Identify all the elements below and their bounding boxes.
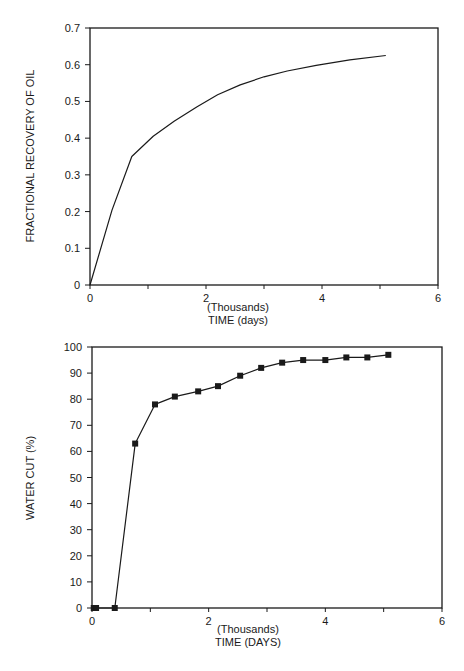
y-tick-label: 0.7 xyxy=(65,22,80,34)
y-tick-label: 20 xyxy=(70,550,82,562)
x-tick-label: 0 xyxy=(89,615,95,627)
square-marker xyxy=(343,354,349,360)
square-marker xyxy=(152,401,158,407)
square-marker xyxy=(112,605,118,611)
series-line xyxy=(94,355,389,608)
square-marker xyxy=(195,388,201,394)
data-series xyxy=(91,352,392,611)
x-axis-title: TIME (DAYS) xyxy=(215,636,281,648)
y-axis-title: WATER CUT (%) xyxy=(24,436,36,520)
y-tick-label: 80 xyxy=(70,393,82,405)
x-axis-units: (Thousands) xyxy=(217,623,279,635)
y-tick-label: 0 xyxy=(76,602,82,614)
y-tick-label: 70 xyxy=(70,419,82,431)
y-axis-ticks: 00.10.20.30.40.50.60.7 xyxy=(65,22,90,291)
x-axis-title: TIME (days) xyxy=(208,314,268,326)
square-marker xyxy=(93,605,99,611)
y-tick-label: 0 xyxy=(74,279,80,291)
y-axis-title: FRACTIONAL RECOVERY OF OIL xyxy=(24,70,36,243)
x-axis-units: (Thousands) xyxy=(207,301,269,313)
chart-canvas: 00.10.20.30.40.50.60.7 0246 FRACTIONAL R… xyxy=(0,0,464,671)
plot-frame xyxy=(92,347,442,608)
square-marker xyxy=(132,441,138,447)
x-tick-label: 4 xyxy=(319,292,325,304)
square-marker xyxy=(385,352,391,358)
x-tick-label: 4 xyxy=(322,615,328,627)
square-marker xyxy=(172,394,178,400)
square-marker xyxy=(322,357,328,363)
x-tick-label: 6 xyxy=(435,292,441,304)
square-marker xyxy=(258,365,264,371)
y-tick-label: 60 xyxy=(70,445,82,457)
y-tick-label: 30 xyxy=(70,524,82,536)
square-marker xyxy=(215,383,221,389)
y-tick-label: 0.5 xyxy=(65,95,80,107)
oil-recovery-chart: 00.10.20.30.40.50.60.7 0246 FRACTIONAL R… xyxy=(24,22,441,326)
y-tick-label: 0.6 xyxy=(65,59,80,71)
y-tick-label: 0.2 xyxy=(65,206,80,218)
y-tick-label: 100 xyxy=(64,341,82,353)
data-series xyxy=(90,56,386,286)
y-tick-label: 0.3 xyxy=(65,169,80,181)
water-cut-chart: 0102030405060708090100 0246 WATER CUT (%… xyxy=(24,341,445,648)
y-tick-label: 90 xyxy=(70,367,82,379)
x-tick-label: 2 xyxy=(206,615,212,627)
y-tick-label: 10 xyxy=(70,576,82,588)
square-marker xyxy=(237,373,243,379)
square-marker xyxy=(300,357,306,363)
x-tick-label: 0 xyxy=(87,292,93,304)
y-tick-label: 0.1 xyxy=(65,242,80,254)
y-tick-label: 0.4 xyxy=(65,132,80,144)
square-marker xyxy=(279,360,285,366)
x-tick-label: 6 xyxy=(439,615,445,627)
square-marker xyxy=(364,354,370,360)
y-axis-ticks: 0102030405060708090100 xyxy=(64,341,92,614)
y-tick-label: 40 xyxy=(70,498,82,510)
series-line xyxy=(90,56,386,286)
y-tick-label: 50 xyxy=(70,472,82,484)
plot-frame xyxy=(90,28,438,285)
